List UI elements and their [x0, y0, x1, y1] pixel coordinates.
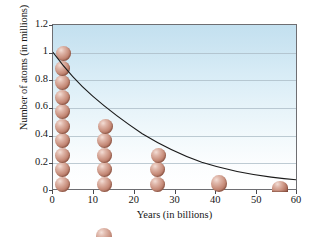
x-tick-label: 20	[119, 194, 149, 205]
chart-figure: Number of atoms (in millions) 1.2 1 0.8 …	[0, 0, 315, 237]
y-tick-mark	[49, 190, 53, 191]
x-tick-label: 60	[281, 194, 311, 205]
plot-area	[52, 24, 297, 190]
y-tick-label: 0.8	[22, 74, 48, 84]
y-tick-label: 1.2	[22, 19, 48, 29]
y-tick-label: 1	[22, 46, 48, 56]
y-tick-label: 0.6	[22, 101, 48, 111]
atom-sphere-icon	[96, 228, 112, 237]
x-tick-label: 40	[200, 194, 230, 205]
y-tick-label: 0.2	[22, 157, 48, 167]
x-tick-label: 0	[37, 194, 67, 205]
x-tick-label: 30	[160, 194, 190, 205]
x-tick-label: 10	[78, 194, 108, 205]
x-tick-label: 50	[241, 194, 271, 205]
y-tick-label: 0.4	[22, 129, 48, 139]
x-axis-label: Years (in billions)	[52, 209, 297, 220]
decay-curve	[53, 25, 296, 189]
